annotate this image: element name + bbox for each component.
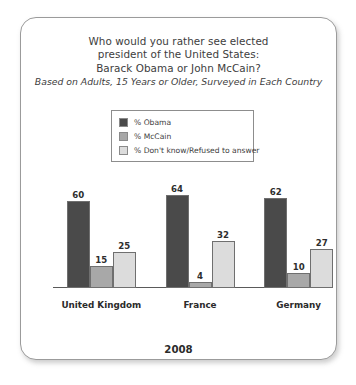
title-line-2: president of the United States: <box>21 48 336 61</box>
bar <box>67 201 90 288</box>
legend-label-mccain: % McCain <box>134 132 171 141</box>
bar-column: 32 <box>212 186 235 288</box>
bar-group: 601525United Kingdom <box>52 186 151 322</box>
bar-column: 25 <box>113 186 136 288</box>
legend-swatch-dont-know <box>119 146 128 155</box>
bar <box>264 198 287 288</box>
bar-group-bars: 64432 <box>151 186 250 288</box>
category-label: France <box>151 300 250 310</box>
bar <box>310 249 333 288</box>
bar-group: 621027Germany <box>249 186 348 322</box>
legend-swatch-mccain <box>119 132 128 141</box>
chart-page: Who would you rather see elected preside… <box>0 0 356 385</box>
bar-groups: 601525United Kingdom64432France621027Ger… <box>52 186 348 322</box>
chart-plot-area: 601525United Kingdom64432France621027Ger… <box>52 186 348 322</box>
bar <box>90 266 113 288</box>
chart-footer-year: 2008 <box>21 344 336 355</box>
bar-group-bars: 621027 <box>249 186 348 288</box>
legend-label-obama: % Obama <box>134 118 171 127</box>
chart-subtitle: Based on Adults, 15 Years or Older, Surv… <box>21 75 336 90</box>
category-label: Germany <box>249 300 348 310</box>
bar-group: 64432France <box>151 186 250 322</box>
legend-item-obama: % Obama <box>119 115 247 129</box>
legend-item-mccain: % McCain <box>119 129 247 143</box>
bar-column: 27 <box>310 186 333 288</box>
title-line-1: Who would you rather see elected <box>21 35 336 48</box>
category-label: United Kingdom <box>52 300 151 310</box>
chart-card: Who would you rather see elected preside… <box>20 17 337 360</box>
title-line-3: Barack Obama or John McCain? <box>21 62 336 75</box>
bar-column: 60 <box>67 186 90 288</box>
bar-value-label: 32 <box>203 230 243 240</box>
bar <box>212 241 235 288</box>
chart-legend: % Obama % McCain % Don't know/Refused to… <box>111 110 254 162</box>
legend-swatch-obama <box>119 118 128 127</box>
legend-label-dont-know: % Don't know/Refused to answer <box>134 146 259 155</box>
bar <box>113 252 136 288</box>
legend-item-dont-know: % Don't know/Refused to answer <box>119 143 247 157</box>
bar-value-label: 25 <box>104 241 144 251</box>
chart-title-block: Who would you rather see elected preside… <box>21 35 336 90</box>
bar-column: 62 <box>264 186 287 288</box>
bar <box>189 282 212 288</box>
bar-group-bars: 601525 <box>52 186 151 288</box>
bar-value-label: 27 <box>302 238 342 248</box>
bar-column: 15 <box>90 186 113 288</box>
bar <box>287 273 310 288</box>
